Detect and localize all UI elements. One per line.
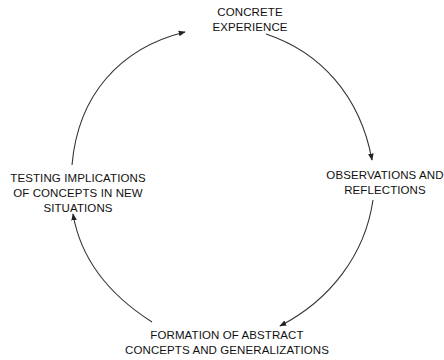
node-label-line: CONCEPTS AND GENERALIZATIONS [122, 343, 332, 358]
node-formation-abstract-concepts: FORMATION OF ABSTRACT CONCEPTS AND GENER… [122, 328, 332, 358]
node-label-line: SITUATIONS [8, 201, 148, 216]
arrow-testing-to-experience [72, 32, 185, 165]
node-label-line: TESTING IMPLICATIONS [8, 171, 148, 186]
arrow-experience-to-observations [266, 34, 372, 160]
node-label-line: REFLECTIONS [326, 183, 444, 198]
node-observations-reflections: OBSERVATIONS AND REFLECTIONS [326, 168, 444, 198]
node-label-line: EXPERIENCE [206, 20, 294, 35]
arrow-observations-to-formation [280, 200, 373, 326]
node-label-line: OBSERVATIONS AND [326, 168, 444, 183]
node-testing-implications: TESTING IMPLICATIONS OF CONCEPTS IN NEW … [8, 171, 148, 216]
arrow-formation-to-testing [73, 214, 152, 322]
node-label-line: OF CONCEPTS IN NEW [8, 186, 148, 201]
node-label-line: CONCRETE [206, 5, 294, 20]
node-label-line: FORMATION OF ABSTRACT [122, 328, 332, 343]
node-concrete-experience: CONCRETE EXPERIENCE [206, 5, 294, 35]
